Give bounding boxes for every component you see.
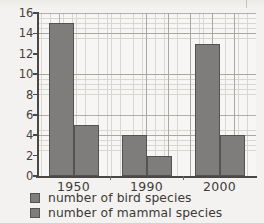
bar-2000-bird bbox=[195, 44, 220, 176]
y-axis-tick-label: 12 bbox=[19, 47, 37, 61]
bar-1990-mammal bbox=[147, 156, 172, 176]
bar-chart: 0246810121416 195019902000 bbox=[0, 0, 264, 223]
x-axis-tick-mark bbox=[110, 176, 111, 180]
bars-layer bbox=[37, 13, 256, 176]
y-axis-tick-label: 10 bbox=[19, 67, 37, 81]
chart-legend: number of bird species number of mammal … bbox=[30, 191, 260, 221]
legend-swatch-icon-mammal bbox=[30, 208, 40, 218]
bar-1950-mammal bbox=[74, 125, 99, 176]
y-axis-tick-label: 4 bbox=[26, 128, 37, 142]
y-axis-tick-label: 0 bbox=[26, 169, 37, 183]
legend-item-bird-species: number of bird species bbox=[30, 191, 260, 205]
chart-page: 0246810121416 195019902000 number of bir… bbox=[0, 0, 264, 223]
y-axis-tick-label: 8 bbox=[26, 88, 37, 102]
y-axis-tick-label: 16 bbox=[19, 6, 37, 20]
legend-swatch-icon-bird bbox=[30, 193, 40, 203]
legend-label-bird: number of bird species bbox=[48, 191, 192, 205]
bar-1950-bird bbox=[49, 23, 74, 176]
y-axis-tick-label: 14 bbox=[19, 26, 37, 40]
x-axis-tick-mark bbox=[183, 176, 184, 180]
y-axis-tick-label: 6 bbox=[26, 108, 37, 122]
y-axis-tick-label: 2 bbox=[26, 149, 37, 163]
legend-item-mammal-species: number of mammal species bbox=[30, 206, 260, 220]
x-axis-line bbox=[36, 176, 257, 178]
legend-label-mammal: number of mammal species bbox=[48, 206, 222, 220]
bar-2000-mammal bbox=[220, 135, 245, 176]
bar-1990-bird bbox=[122, 135, 147, 176]
